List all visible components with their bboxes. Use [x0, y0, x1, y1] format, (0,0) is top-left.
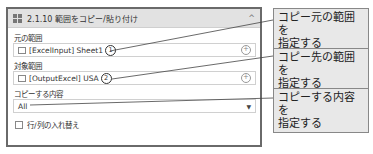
callout-text: コピーする内容を: [278, 91, 364, 117]
callout-copy-content: コピーする内容を 指定する: [273, 88, 369, 133]
callout-text: 指定する: [278, 117, 364, 130]
callout-text: コピー先の範囲を: [278, 51, 364, 77]
callout-target-range: コピー先の範囲を 指定する: [273, 48, 369, 93]
callout-text: コピー元の範囲を: [278, 11, 364, 37]
callout-source-range: コピー元の範囲を 指定する: [273, 8, 369, 53]
